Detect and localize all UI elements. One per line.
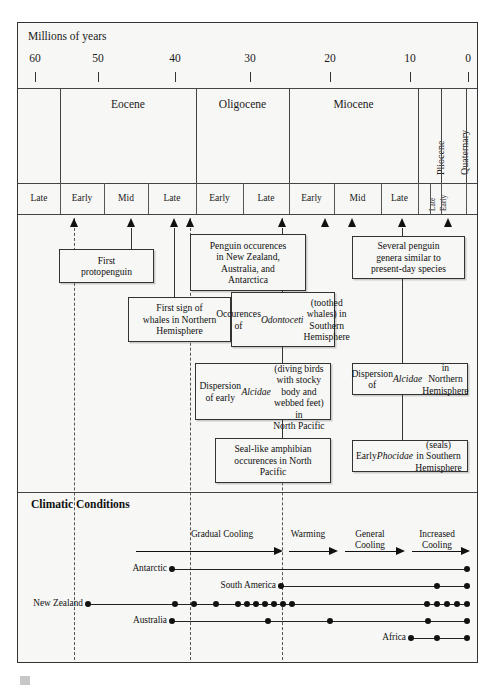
stage-label-8: Late: [381, 193, 418, 203]
stem-first-protopenguin: [131, 228, 132, 249]
region-line-new-zealand: [88, 604, 467, 605]
region-line-australia: [172, 621, 467, 622]
event-arrow-5: [321, 218, 329, 227]
stage-label-5: Late: [243, 193, 289, 203]
region-label-africa: Africa: [286, 632, 406, 642]
event-box-penguin-occurences-nz-aus-ant: Penguin occurencesin New Zealand,Austral…: [190, 234, 306, 291]
axis-tick-mark-30-3: [250, 72, 251, 82]
region-label-antarctic: Antarctic: [47, 563, 167, 573]
page-corner-mark: [20, 676, 30, 685]
axis-tick-label-50-1: 50: [82, 52, 114, 64]
axis-tick-mark-10-5: [410, 72, 411, 82]
stage-divider-11: [441, 183, 442, 214]
climatic-conditions-heading: Climatic Conditions: [31, 498, 130, 510]
climate-phase-arrow-head-3: [461, 547, 470, 555]
stage-label-7: Mid: [334, 193, 381, 203]
stage-label-0: Late: [18, 193, 60, 203]
event-box-several-penguin-genera: Several penguingenera similar topresent-…: [352, 236, 465, 279]
epoch-divider-4: [418, 88, 419, 183]
event-box-odontoceti-southern: Occurences ofOdontoceti (toothedwhales) …: [231, 292, 335, 347]
epoch-label-pliocene: Pliocene: [435, 141, 446, 175]
epoch-label-miocene: Miocene: [289, 98, 418, 110]
climate-phase-arrow-line-2: [345, 551, 396, 552]
axis-tick-mark-50-1: [98, 72, 99, 82]
axis-tick-mark-20-4: [330, 72, 331, 82]
stem-dispersion-alcidae-northern: [402, 279, 403, 363]
epoch-label-oligocene: Oligocene: [196, 98, 289, 110]
epoch-divider-6: [466, 88, 467, 183]
stem-first-sign-whales-northern: [174, 228, 175, 297]
axis-tick-mark-0-6: [468, 72, 469, 82]
axis-tick-mark-60-0: [35, 72, 36, 82]
stage-divider-10: [430, 183, 431, 214]
event-arrow-1: [127, 218, 135, 227]
climate-phase-arrow-line-1: [289, 551, 329, 552]
stem-early-phocidae-southern: [402, 395, 403, 440]
axis-tick-label-40-2: 40: [159, 52, 191, 64]
climate-phase-label-0: Gradual Cooling: [177, 529, 267, 540]
event-arrow-0: [70, 218, 78, 227]
epoch-divider-5: [441, 88, 442, 183]
region-line-antarctic: [172, 569, 467, 570]
stage-label-2: Mid: [104, 193, 148, 203]
stage-divider-9: [418, 183, 419, 214]
region-label-south-america: South America: [156, 580, 276, 590]
axis-tick-label-20-4: 20: [314, 52, 346, 64]
stem-alcidae-seal-link: [282, 420, 283, 438]
epoch-label-quaternary: Quaternary: [459, 130, 470, 175]
stage-divider-12: [466, 183, 467, 214]
geologic-timeline-diagram: Millions of years6050403020100EoceneOlig…: [0, 0, 495, 690]
axis-tick-label-0-6: 0: [452, 52, 484, 64]
dashed-guide-0: [74, 218, 75, 660]
region-label-australia: Australia: [47, 615, 167, 625]
axis-tick-label-30-3: 30: [234, 52, 266, 64]
event-arrow-8: [444, 218, 452, 227]
stage-label-9: Late: [428, 198, 437, 211]
divider-rule-1: [18, 183, 477, 184]
axis-tick-label-60-0: 60: [19, 52, 51, 64]
divider-rule-0: [18, 88, 477, 89]
event-arrow-2: [170, 218, 178, 227]
axis-title: Millions of years: [28, 30, 107, 42]
stage-label-3: Late: [148, 193, 196, 203]
event-box-dispersion-alcidae-northern: Dispersion of Alcidae inNorthern Hemisph…: [352, 363, 468, 395]
divider-rule-3: [18, 492, 477, 493]
stem-penguin-to-odontoceti: [282, 291, 283, 292]
event-arrow-4: [278, 218, 286, 227]
event-arrow-3: [186, 218, 194, 227]
event-box-seal-like-amphibian: Seal-like amphibianoccurences in NorthPa…: [215, 438, 331, 483]
event-arrow-7: [398, 218, 406, 227]
stage-label-1: Early: [60, 193, 104, 203]
axis-tick-label-10-5: 10: [394, 52, 426, 64]
epoch-label-eocene: Eocene: [60, 98, 196, 110]
stem-several-penguin-genera: [402, 228, 403, 236]
event-box-first-protopenguin: Firstprotopenguin: [59, 249, 154, 283]
stage-label-6: Early: [289, 193, 334, 203]
event-box-dispersion-early-alcidae: Dispersion of early Alcidae(diving birds…: [195, 363, 331, 420]
stage-label-4: Early: [196, 193, 243, 203]
axis-tick-mark-40-2: [175, 72, 176, 82]
climate-phase-arrow-head-0: [274, 547, 283, 555]
event-arrow-6: [348, 218, 356, 227]
region-label-new-zealand: New Zealand: [0, 598, 83, 608]
event-box-early-phocidae-southern: Early Phocidae (seals)in Southern Hemisp…: [352, 440, 468, 472]
divider-rule-2: [18, 214, 477, 215]
climate-phase-arrow-line-0: [136, 551, 274, 552]
climate-phase-arrow-line-3: [412, 551, 461, 552]
